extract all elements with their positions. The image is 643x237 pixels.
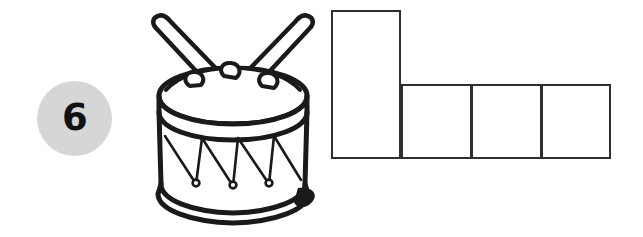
- drum-lug-center: [221, 63, 239, 78]
- cord-knots: [193, 180, 273, 189]
- drum-shadow: [294, 188, 315, 207]
- worksheet-item: 6: [0, 0, 643, 237]
- item-number-label: 6: [62, 99, 87, 136]
- tension-cords: [165, 136, 301, 186]
- drum-shell-right: [305, 112, 307, 184]
- item-number-badge: 6: [37, 81, 112, 156]
- answer-cell-3[interactable]: [471, 84, 542, 159]
- answer-grid: [331, 10, 611, 159]
- drum-bottom-rim: [158, 184, 308, 223]
- drum-icon: [138, 2, 328, 234]
- answer-cell-4[interactable]: [541, 84, 611, 159]
- answer-cell-1[interactable]: [331, 10, 401, 159]
- drum-lug-right: [259, 73, 277, 88]
- drum-illustration: [138, 2, 328, 234]
- drum-lug-left: [185, 72, 203, 86]
- answer-cell-2[interactable]: [401, 84, 472, 159]
- drum-shell-left: [159, 112, 161, 184]
